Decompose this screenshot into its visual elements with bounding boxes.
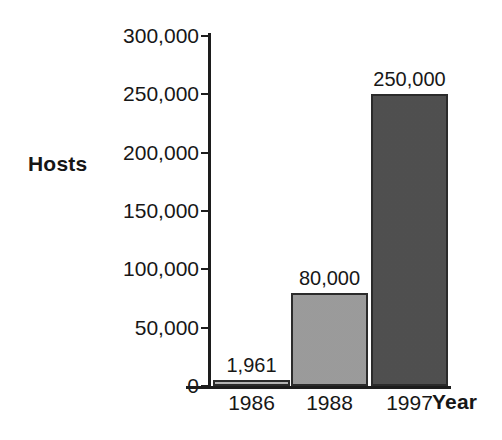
bar-1997	[371, 94, 448, 386]
bar-value-label-1988: 80,000	[299, 267, 360, 290]
bar-chart: Hosts Year 050,000100,000150,000200,0002…	[0, 0, 502, 440]
x-tick-label-1997: 1997	[386, 391, 433, 415]
x-tick-label-1988: 1988	[306, 391, 353, 415]
bar-1988	[291, 293, 368, 386]
bar-1986	[213, 380, 290, 386]
bar-value-label-1997: 250,000	[373, 68, 445, 91]
plot-area: 1,961198680,0001988250,0001997	[0, 0, 502, 440]
bar-value-label-1986: 1,961	[226, 354, 276, 377]
x-tick-label-1986: 1986	[228, 391, 275, 415]
